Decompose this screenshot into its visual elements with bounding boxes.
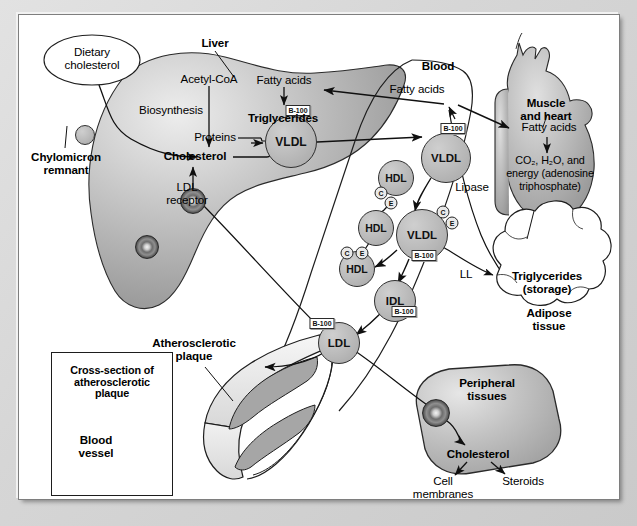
tag-b100-idl: B-100	[391, 306, 416, 317]
inset-title: Cross-section ofatheroscleroticplaque	[53, 365, 171, 400]
diagram-panel: VLDL VLDL HDL VLDL HDL HDL IDL LDL C E C…	[18, 14, 620, 500]
lipoprotein-hdl-2[interactable]: HDL	[358, 210, 394, 246]
line-ldl-to-peripheral	[355, 351, 433, 409]
arrow-remnant-to-hdl3	[375, 250, 397, 267]
apo-c-marker-hdl3: C	[341, 247, 354, 260]
lipoprotein-vldl-blood[interactable]: VLDL	[421, 133, 471, 183]
cross-section-inset-box: Cross-section ofatheroscleroticplaque Bl…	[51, 352, 173, 496]
line-liver-receptor-to-ldl	[199, 201, 319, 327]
label-energy-products-1: CO₂, H₂O, and	[515, 155, 585, 167]
tag-b100-ldl: B-100	[309, 318, 334, 329]
label-energy-products-2: energy (adenosine	[506, 168, 594, 180]
label-blood: Blood	[422, 60, 454, 73]
label-lipase: Lipase	[455, 181, 489, 194]
label-ldl-receptor: LDLreceptor	[166, 181, 208, 206]
label-cholesterol-peripheral: Cholesterol	[447, 448, 510, 461]
label-adipose-tissue: Adiposetissue	[526, 307, 571, 332]
label-chylomicron-remnant: Chylomicronremnant	[31, 151, 101, 176]
arrow-remnant-to-idl	[398, 259, 409, 283]
heart-vessel-left	[495, 89, 509, 215]
ldl-receptor-liver-secondary-icon	[135, 235, 159, 259]
label-triglycerides-storage: Triglycerides(storage)	[512, 270, 582, 295]
inset-blood-vessel-label: Bloodvessel	[79, 434, 114, 459]
label-fatty-acids-muscle: Fatty acids	[522, 121, 577, 134]
label-fatty-acids-liver: Fatty acids	[257, 74, 312, 87]
tag-b100-vldl-blood: B-100	[440, 123, 465, 134]
label-liver: Liver	[201, 37, 228, 50]
label-triglycerides-liver: Triglycerides	[248, 112, 318, 125]
apo-e-marker-vldl-remnant: E	[446, 217, 459, 230]
label-muscle-and-heart: Muscleand heart	[520, 97, 571, 122]
apo-e-marker-hdl3: E	[356, 247, 369, 260]
label-steroids: Steroids	[502, 475, 544, 488]
label-ll: LL	[460, 268, 473, 281]
label-acetyl-coa: Acetyl-CoA	[181, 73, 238, 86]
ldl-receptor-peripheral-icon	[422, 399, 450, 427]
tag-b100-vldl-remnant: B-100	[411, 250, 436, 261]
label-dietary-cholesterol: Dietarycholesterol	[65, 46, 120, 71]
chylomicron-remnant-particle[interactable]	[75, 125, 95, 145]
label-energy-products-3: triphosphate)	[519, 181, 581, 193]
figure-root: VLDL VLDL HDL VLDL HDL HDL IDL LDL C E C…	[0, 0, 637, 526]
arrow-vldl-to-remnant	[415, 178, 431, 211]
label-cell-membranes: Cellmembranes	[413, 475, 473, 500]
label-fatty-acids-blood: Fatty acids	[390, 83, 445, 96]
chylomicron-leader-line	[65, 126, 67, 148]
label-peripheral-tissues: Peripheraltissues	[459, 377, 515, 402]
label-biosynthesis: Biosynthesis	[139, 104, 203, 117]
arrow-idl-to-ldl	[356, 313, 381, 335]
label-cholesterol-liver: Cholesterol	[164, 150, 227, 163]
label-proteins: Proteins	[194, 131, 236, 144]
apo-e-marker-hdl1: E	[385, 197, 398, 210]
